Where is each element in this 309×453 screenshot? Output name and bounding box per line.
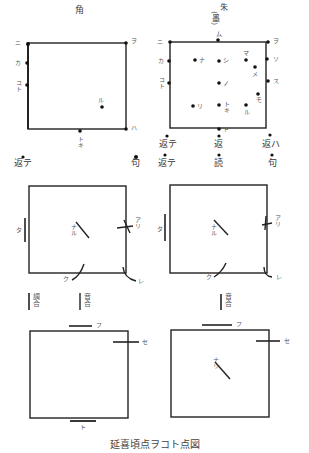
d1l-left-2: コト [15, 80, 21, 92]
d3r-top: フ [236, 321, 242, 327]
d2l-right: アリ [134, 217, 140, 229]
d1r-int-no: ノ [223, 80, 229, 86]
figure-caption: 延喜頃点ヲコト点図 [0, 436, 309, 451]
d1r-int-me: メ [252, 71, 258, 77]
d2r-bottom-right: レ [276, 274, 282, 280]
d1l-interior: ル [98, 97, 104, 103]
box-3-left [30, 331, 128, 418]
d1r-int-toki: トキ [223, 101, 229, 113]
d2r-note-1: 音合 [224, 293, 231, 307]
box-2-left [29, 186, 126, 273]
d1r-below2-right: 句 [268, 159, 277, 168]
d1l-bottom: トキ [77, 136, 83, 148]
d3r-right: セ [284, 338, 290, 344]
d2l-bottom-right: レ [138, 278, 144, 284]
d2l-left: タ [16, 227, 22, 233]
d2r-center: ナル [210, 224, 216, 236]
box-1-right [170, 42, 266, 128]
d2l-bottom: ク [63, 276, 69, 282]
d1l-corner-tr: ヲ [131, 38, 137, 44]
d2l-note-1: 調合 [32, 293, 39, 307]
box-3-right [171, 330, 269, 417]
d3l-top: フ [96, 322, 102, 328]
d1r-int-shi: シ [223, 57, 229, 63]
d2r-bottom: ク [206, 274, 212, 280]
d1r-corner-tl: ニ [157, 39, 163, 45]
header-sumi: (墨) [210, 11, 218, 25]
okoto-diagram-figure: 角 朱 (墨) ニ ヲ ハ カ コト ル トキ 返テ 句 ニ ヲ ム カ コト … [0, 0, 309, 453]
d1r-below1-right: 返ハ [262, 140, 280, 149]
d2l-note-2: 音合 [83, 293, 90, 307]
d1r-right-2: ス [273, 78, 279, 84]
d1r-below1-center: 返 [214, 140, 223, 149]
d1r-int-na: ナ [199, 57, 205, 63]
header-kaku: 角 [75, 6, 84, 15]
d1r-int-ru: ル [244, 109, 250, 115]
box-2-right [170, 185, 267, 273]
d1l-corner-br: ハ [131, 125, 137, 131]
d1r-int-ma: マ [243, 50, 249, 56]
d1r-left-2: コト [158, 77, 164, 89]
d1r-below2-left: 返テ [158, 159, 176, 168]
d1l-below-right: 句 [131, 159, 140, 168]
d3l-bottom: ト [80, 424, 86, 430]
d3r-center: ナリ [212, 357, 218, 369]
d1r-below2-center: 読 [214, 159, 223, 168]
d1r-bottom: ト [223, 126, 229, 132]
d1l-below-left: 返テ [14, 159, 32, 168]
d1l-left-1: カ [15, 60, 21, 66]
d1l-corner-tl: ニ [15, 40, 21, 46]
box-1-left [28, 43, 126, 129]
d1r-left-1: カ [158, 58, 164, 64]
d1r-int-ri: リ [197, 103, 203, 109]
d1r-corner-tr: ヲ [273, 38, 279, 44]
d1r-top: ム [216, 31, 222, 37]
header-shu: 朱 [220, 4, 228, 12]
d1r-right-1: ソ [273, 56, 279, 62]
diagram-lines [0, 0, 309, 453]
d2r-left: タ [157, 226, 163, 232]
d3l-right: セ [142, 339, 148, 345]
d2l-center: ナル [70, 224, 76, 236]
d1r-int-mo: モ [256, 97, 262, 103]
d2r-right: アリ [274, 215, 280, 227]
d1r-below1-left: 返テ [159, 140, 177, 149]
